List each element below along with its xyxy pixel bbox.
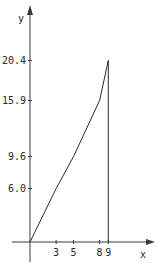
y-axis-label: y xyxy=(18,13,24,24)
x-tick-label: 5 xyxy=(70,247,76,258)
y-tick-label: 9.6 xyxy=(8,151,26,162)
x-tick-label: 3 xyxy=(53,247,59,258)
y-tick-label: 15.9 xyxy=(2,95,26,106)
x-tick-label: 9 xyxy=(105,247,111,258)
y-axis-arrow-icon xyxy=(27,5,33,15)
x-axis-arrow-icon xyxy=(146,239,155,245)
y-tick-label: 20.4 xyxy=(2,55,26,66)
tick-labels: xy35896.09.615.920.4 xyxy=(2,13,146,260)
y-tick-label: 6.0 xyxy=(8,183,26,194)
axes xyxy=(12,5,155,262)
x-tick-label: 8 xyxy=(97,247,103,258)
x-axis-label: x xyxy=(140,249,146,260)
data-line xyxy=(30,60,108,242)
line-chart: xy35896.09.615.920.4 xyxy=(0,0,159,263)
plot-area xyxy=(30,60,108,242)
